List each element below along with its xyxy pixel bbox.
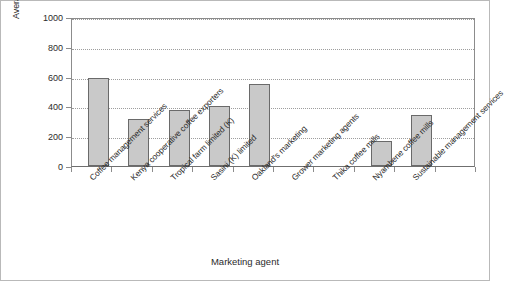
x-tick-mark (233, 167, 234, 172)
x-tick-mark (152, 167, 153, 172)
bar (88, 78, 109, 166)
x-tick-mark (475, 167, 476, 172)
gridline-600 (72, 79, 474, 80)
gridline-1000 (72, 19, 474, 20)
x-tick-mark (435, 167, 436, 172)
y-tick-label-200: 200 (29, 132, 63, 142)
x-tick-mark (313, 167, 314, 172)
x-tick-mark (71, 167, 72, 172)
y-tick-label-400: 400 (29, 102, 63, 112)
y-axis-title: Average price/50 kg bag (USD) (9, 0, 23, 33)
gridline-800 (72, 49, 474, 50)
x-tick-mark (394, 167, 395, 172)
y-tick-label-1000: 1000 (29, 13, 63, 23)
x-axis-title: Marketing agent (1, 256, 489, 267)
y-tick-label-600: 600 (29, 73, 63, 83)
gridline-400 (72, 108, 474, 109)
bar (249, 84, 270, 166)
x-tick-mark (273, 167, 274, 172)
y-tick-label-0: 0 (29, 162, 63, 172)
x-tick-mark (354, 167, 355, 172)
y-tick-label-800: 800 (29, 43, 63, 53)
x-tick-mark (111, 167, 112, 172)
x-tick-mark (192, 167, 193, 172)
